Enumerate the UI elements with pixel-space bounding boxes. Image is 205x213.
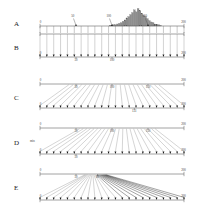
axis-start-label: 0 [40, 78, 42, 82]
arrowhead [80, 54, 82, 57]
mapping-line [102, 129, 112, 152]
axis-start-label: 0 [40, 20, 42, 24]
histogram-bar [135, 12, 137, 26]
axis-tick-label: 100 [110, 129, 115, 133]
arrowhead [60, 151, 62, 154]
mapping-line [67, 129, 94, 152]
figure-container: A 020050100150 B 020050100 C 02005010015… [0, 0, 205, 213]
histogram-bar [133, 10, 135, 26]
mapping-line [54, 175, 87, 198]
arrowhead [128, 54, 130, 57]
histogram-bar [150, 22, 152, 26]
histogram-bar [128, 17, 130, 26]
mapping-line [155, 85, 178, 106]
arrowhead [101, 54, 103, 57]
histogram-bar [139, 11, 141, 26]
arrowhead [128, 105, 130, 108]
mapping-line [40, 129, 80, 152]
mapping-line [115, 129, 119, 152]
mapping-line [81, 175, 91, 198]
mapping-line [129, 85, 136, 106]
axis-tick-label: 50 [74, 58, 78, 62]
mapping-lines [40, 34, 184, 54]
arrowhead [101, 197, 103, 200]
panel-c-plot: 0200501001500200131 [0, 76, 205, 118]
panel-d-plot: 020050100150020050min [0, 120, 205, 164]
arrowhead [149, 151, 151, 154]
callout-label: 150 [142, 14, 147, 18]
axis-end-label: 200 [181, 168, 186, 172]
arrowhead [108, 151, 110, 154]
arrowhead [80, 151, 82, 154]
arrowhead [87, 105, 89, 108]
axis-tick-label: 100 [110, 85, 115, 89]
arrowhead [66, 54, 68, 57]
histogram [109, 9, 161, 27]
arrowhead [80, 197, 82, 200]
histogram-bar [117, 24, 119, 26]
mapping-line [155, 129, 184, 152]
arrowhead [94, 151, 96, 154]
mapping-line [103, 175, 163, 198]
arrowhead [108, 197, 110, 200]
arrowhead [87, 151, 89, 154]
arrowhead [108, 54, 110, 57]
mapping-line [152, 129, 178, 152]
axis-tick-label: 50 [74, 155, 78, 159]
arrowhead [53, 54, 55, 57]
mapping-line [106, 175, 184, 198]
panel-letter-b: B [14, 44, 19, 52]
panel-letter-e: E [14, 184, 18, 192]
arrowhead [169, 105, 171, 108]
mapping-lines [40, 175, 184, 198]
mapping-line [133, 85, 143, 106]
arrowhead [156, 105, 158, 108]
mapping-line [61, 85, 82, 106]
axis-start-label: 0 [40, 51, 42, 55]
panel-b-plot: 020050100 [0, 30, 205, 66]
axis-start-label: 0 [40, 148, 42, 152]
histogram-bar [124, 20, 126, 26]
mapping-line [95, 85, 103, 106]
axis-end-label: 200 [181, 78, 186, 82]
arrowhead [73, 54, 75, 57]
axis-tick-label: 100 [110, 58, 115, 62]
arrowhead [121, 105, 123, 108]
arrowhead [101, 151, 103, 154]
arrowhead [121, 151, 123, 154]
mapping-line [120, 85, 122, 106]
arrowhead [162, 151, 164, 154]
arrowhead [66, 197, 68, 200]
arrowhead [46, 197, 48, 200]
arrowhead [162, 54, 164, 57]
histogram-bar [126, 18, 128, 26]
min-annotation: min [30, 139, 35, 143]
mapping-line [88, 129, 105, 152]
histogram-bar [137, 9, 139, 27]
arrowhead [135, 105, 137, 108]
arrowhead [94, 197, 96, 200]
arrowhead [128, 197, 130, 200]
callout-leader [110, 19, 113, 26]
mapping-line [126, 129, 129, 152]
axis-end-label: 200 [181, 122, 186, 126]
arrowhead [156, 197, 158, 200]
axis-end-label: 200 [181, 20, 186, 24]
axis-end-label: 200 [181, 194, 186, 198]
axis-end-label: 200 [181, 148, 186, 152]
arrowhead [53, 197, 55, 200]
panel-letter-a: A [14, 20, 19, 28]
panel-e: E 020050800200 [0, 166, 205, 210]
arrowhead [87, 197, 89, 200]
axis-start-label: 0 [40, 168, 42, 172]
panel-c: C 0200501001500200131 [0, 76, 205, 118]
arrowhead [60, 54, 62, 57]
callout-point [111, 24, 113, 26]
mapping-line [148, 129, 170, 152]
mapping-line [144, 129, 163, 152]
arrowhead [176, 197, 178, 200]
arrowhead [108, 105, 110, 108]
callout-label: 100 [106, 14, 111, 18]
mapping-line [102, 85, 108, 106]
arrowhead [60, 105, 62, 108]
